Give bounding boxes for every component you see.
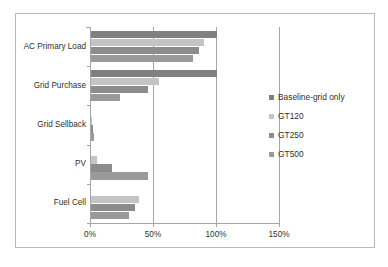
bar-row	[91, 148, 279, 155]
bar-row	[91, 70, 279, 77]
bar[interactable]	[91, 55, 193, 62]
bar[interactable]	[91, 39, 204, 46]
bar-row	[91, 156, 279, 163]
bar-group	[91, 66, 279, 105]
bar-row	[91, 31, 279, 38]
bar[interactable]	[91, 196, 139, 203]
bar-row	[91, 78, 279, 85]
category-axis-labels: AC Primary LoadGrid PurchaseGrid Sellbac…	[16, 27, 86, 223]
plot-area	[90, 27, 279, 223]
x-tick	[216, 223, 217, 227]
bar[interactable]	[91, 156, 97, 163]
bar[interactable]	[91, 125, 93, 132]
category-label: PV	[20, 159, 86, 169]
bar[interactable]	[91, 94, 120, 101]
x-tick	[279, 223, 280, 227]
bar[interactable]	[91, 86, 148, 93]
x-tick	[90, 223, 91, 227]
category-tick	[86, 27, 90, 28]
x-tick	[153, 223, 154, 227]
legend-label: GT120	[278, 111, 304, 121]
bar-group	[91, 27, 279, 66]
bar[interactable]	[91, 212, 129, 219]
legend-item[interactable]: GT250	[269, 130, 374, 140]
bar-row	[91, 109, 279, 116]
legend-swatch-icon	[269, 114, 274, 119]
legend-label: GT500	[278, 149, 304, 159]
chart-legend: Baseline-grid onlyGT120GT250GT500	[269, 92, 374, 168]
bar-group	[91, 105, 279, 144]
bar[interactable]	[91, 31, 217, 38]
legend-item[interactable]: Baseline-grid only	[269, 92, 374, 102]
bar-row	[91, 212, 279, 219]
chart-frame: AC Primary LoadGrid PurchaseGrid Sellbac…	[15, 13, 375, 248]
bar-row	[91, 172, 279, 179]
bar-row	[91, 55, 279, 62]
x-tick-label: 150%	[269, 230, 290, 239]
bar[interactable]	[91, 204, 135, 211]
bar-row	[91, 86, 279, 93]
bar-group	[91, 145, 279, 184]
category-label: AC Primary Load	[20, 42, 86, 52]
bar-row	[91, 133, 279, 140]
bar-group	[91, 184, 279, 223]
bar-row	[91, 94, 279, 101]
bar-row	[91, 164, 279, 171]
category-label: Fuel Cell	[20, 198, 86, 208]
x-tick-label: 100%	[206, 230, 227, 239]
legend-swatch-icon	[269, 133, 274, 138]
bar[interactable]	[91, 133, 94, 140]
legend-swatch-icon	[269, 95, 274, 100]
legend-item[interactable]: GT500	[269, 149, 374, 159]
bar[interactable]	[91, 47, 199, 54]
category-label: Grid Sellback	[20, 120, 86, 130]
bar-row	[91, 39, 279, 46]
bar[interactable]	[91, 164, 112, 171]
bar-row	[91, 188, 279, 195]
x-tick-label: 50%	[145, 230, 161, 239]
bar-row	[91, 204, 279, 211]
bar[interactable]	[91, 117, 92, 124]
legend-label: Baseline-grid only	[278, 92, 345, 102]
bar-row	[91, 125, 279, 132]
bar-row	[91, 117, 279, 124]
bar-row	[91, 196, 279, 203]
x-tick-label: 0%	[84, 230, 96, 239]
bar[interactable]	[91, 172, 148, 179]
bar[interactable]	[91, 78, 159, 85]
category-label: Grid Purchase	[20, 81, 86, 91]
legend-item[interactable]: GT120	[269, 111, 374, 121]
value-axis	[90, 223, 280, 224]
legend-label: GT250	[278, 130, 304, 140]
bar[interactable]	[91, 70, 217, 77]
bar-row	[91, 47, 279, 54]
legend-swatch-icon	[269, 152, 274, 157]
